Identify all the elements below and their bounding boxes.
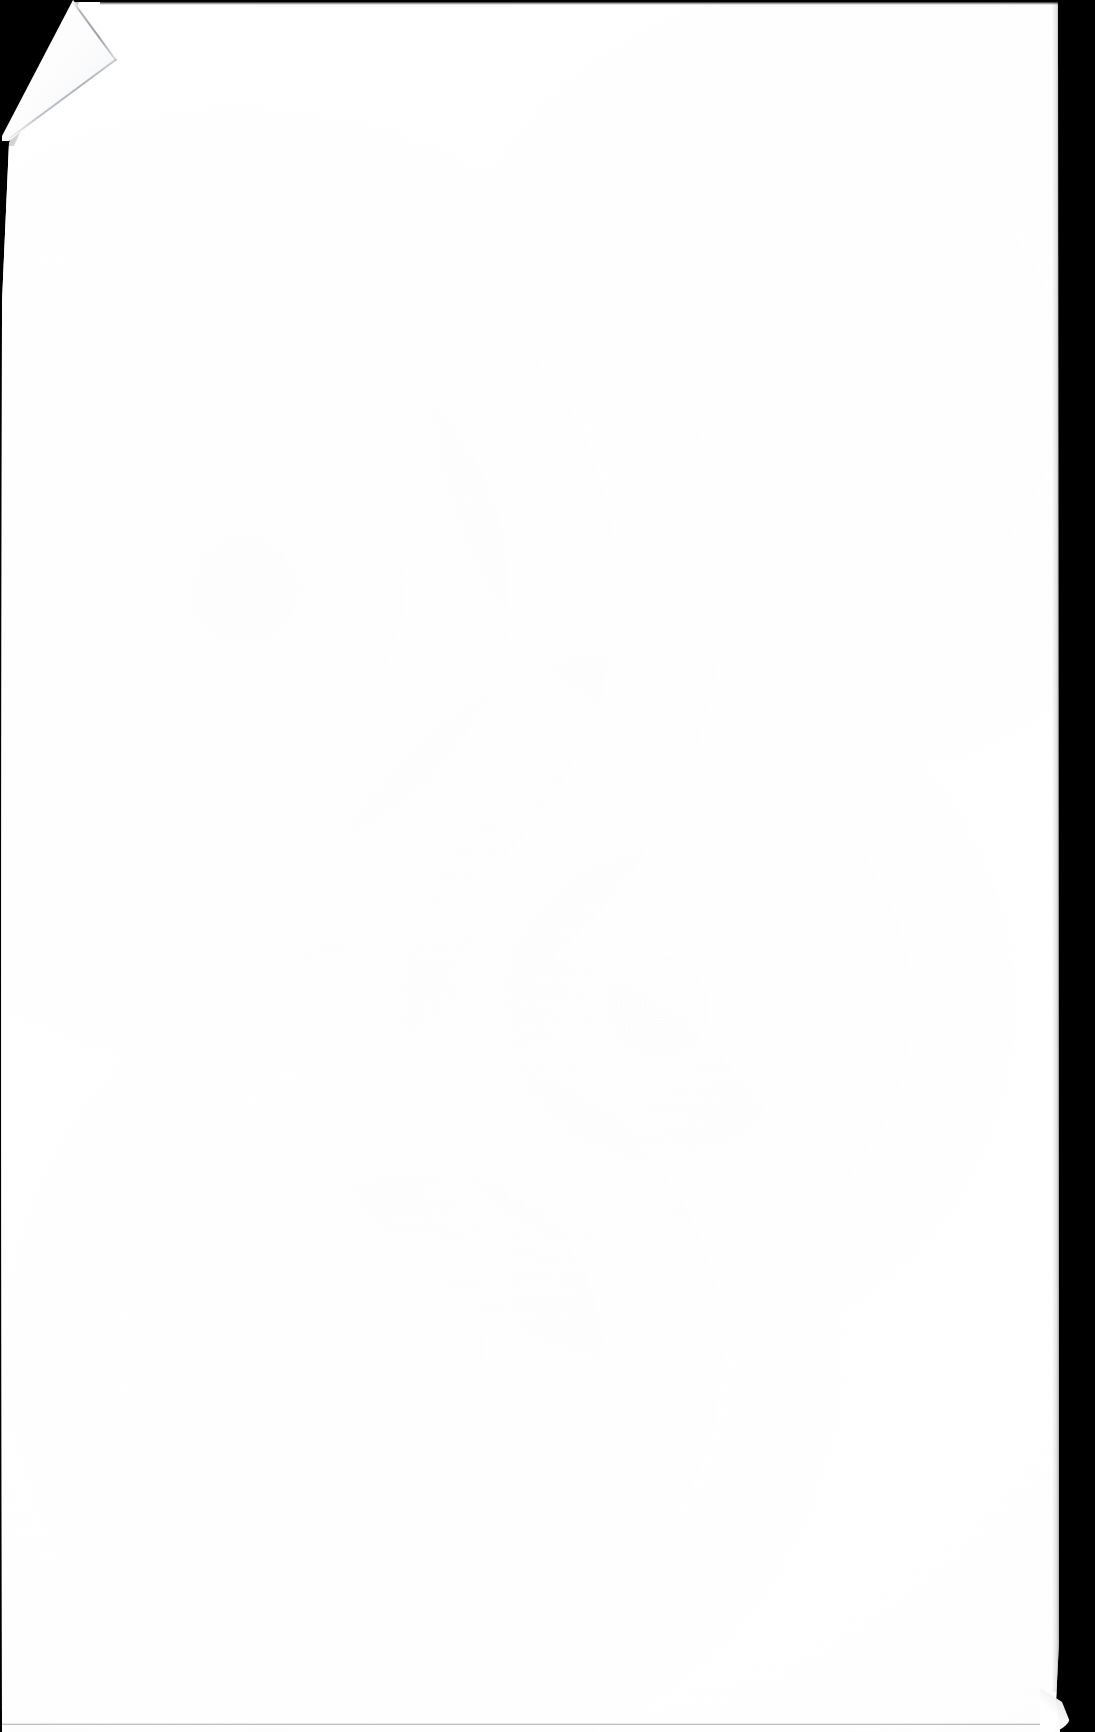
scanned-page-canvas (0, 0, 1095, 1732)
paper-sheet (0, 2, 1060, 1732)
page-top-edge-line (100, 2, 1058, 5)
page-bottom-edge-line (2, 1723, 1054, 1725)
page-right-edge-shadow (1052, 2, 1060, 1692)
page-content-area (120, 152, 1000, 1642)
